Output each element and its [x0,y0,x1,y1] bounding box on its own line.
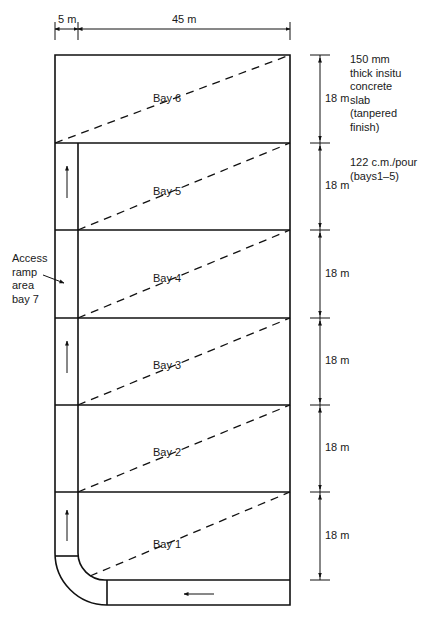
bay-2-length-label: 18 m [325,441,349,454]
callout-line: area [12,279,47,293]
bay-5-length-label: 18 m [325,179,349,192]
bay-1-length-label: 18 m [325,529,349,542]
note-line: 122 c.m./pour [350,156,417,170]
note-line: slab [350,94,401,108]
pour-diagonals [55,55,290,576]
ramp-callout: Access ramp area bay 7 [12,252,47,306]
note-line: finish) [350,121,401,135]
note-line: concrete [350,80,401,94]
bay-3-length-label: 18 m [325,354,349,367]
note-line: thick insitu [350,67,401,81]
note-line: 150 mm [350,53,401,67]
bay-1-label: Bay 1 [153,538,181,551]
bay-4-label: Bay 4 [153,272,181,285]
callout-line: ramp [12,266,47,280]
bay-5-label: Bay 5 [153,185,181,198]
bay-4-length-label: 18 m [325,267,349,280]
pour-volume-note: 122 c.m./pour (bays1–5) [350,156,417,183]
ramp-width-label: 5 m [58,13,76,26]
right-dimension [310,55,330,580]
callout-line: Access [12,252,47,266]
callout-line: bay 7 [12,293,47,307]
slab-spec-note: 150 mm thick insitu concrete slab (tanpe… [350,53,401,134]
note-line: (bays1–5) [350,170,417,184]
bay-3-label: Bay 3 [153,359,181,372]
note-line: (tanpered [350,107,401,121]
bay-2-label: Bay 2 [153,446,181,459]
slab-outline [55,55,290,605]
bay-6-length-label: 18 m [325,92,349,105]
bay-width-label: 45 m [172,13,196,26]
bay-6-label: Bay 6 [153,92,181,105]
